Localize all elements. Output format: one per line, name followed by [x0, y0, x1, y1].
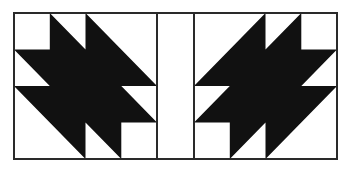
quilt-figure [0, 0, 355, 174]
